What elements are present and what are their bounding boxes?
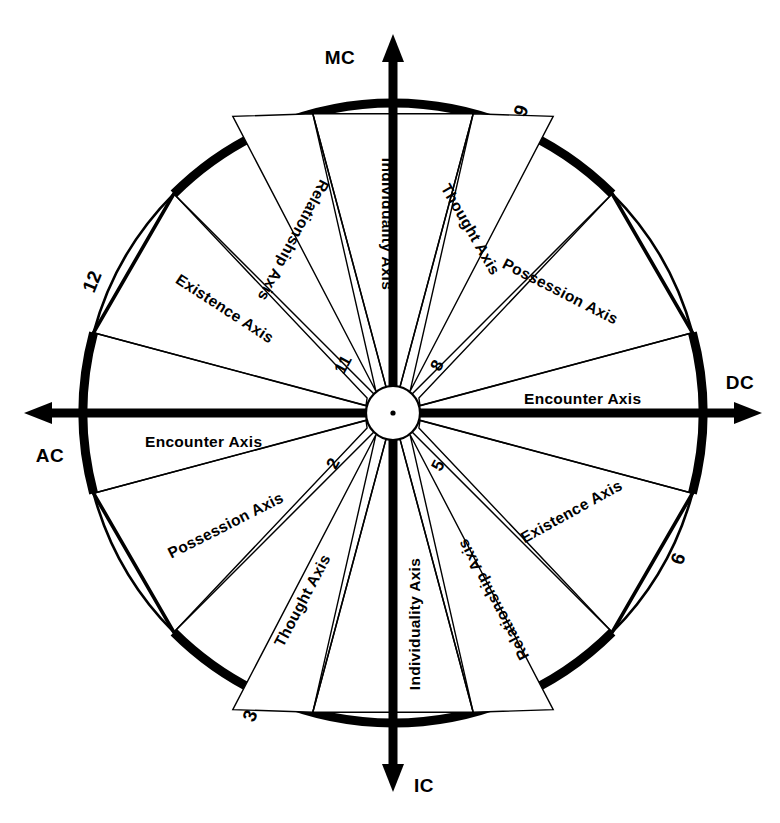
cusp-number-12: 12 xyxy=(78,268,105,295)
encounter-axis-label-left: Encounter Axis xyxy=(145,433,262,450)
center-dot xyxy=(390,410,395,415)
sector-label-individuality-top: Individuality Axis xyxy=(379,158,396,290)
cardinal-label-ic: IC xyxy=(414,775,434,796)
sector-label-individuality-bottom: Individuality Axis xyxy=(406,558,423,690)
inner-number-8: 8 xyxy=(427,357,448,374)
inner-number-5: 5 xyxy=(428,457,449,474)
encounter-axis-label-right: Encounter Axis xyxy=(524,390,641,407)
cardinal-label-mc: MC xyxy=(325,47,356,68)
cardinal-label-dc: DC xyxy=(726,372,754,393)
center-hub xyxy=(366,386,420,440)
axis-wheel-svg: MC DC IC AC 12 9 6 3 11 8 5 2 Encounter … xyxy=(0,0,780,823)
cusp-number-6: 6 xyxy=(666,550,689,568)
cardinal-label-ac: AC xyxy=(36,445,64,466)
arrow-head-mc xyxy=(382,34,404,62)
arrow-head-dc xyxy=(734,402,762,424)
arrow-head-ic xyxy=(382,764,404,792)
diagram-canvas: MC DC IC AC 12 9 6 3 11 8 5 2 Encounter … xyxy=(0,0,780,823)
arrow-head-ac xyxy=(24,402,52,424)
